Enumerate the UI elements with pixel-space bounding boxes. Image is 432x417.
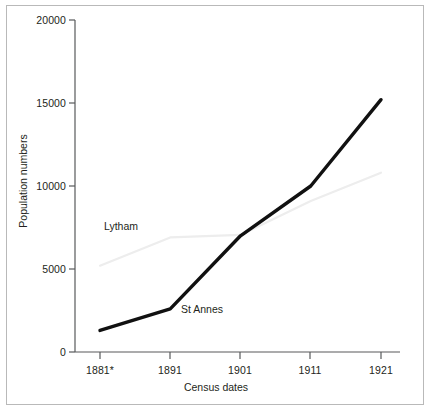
x-tick-label-1901: 1901: [210, 364, 270, 376]
x-axis-title: Census dates: [0, 381, 432, 393]
y-axis-title: Population numbers: [17, 111, 29, 251]
x-axis-ticks: [100, 352, 381, 359]
x-tick-label-1891: 1891: [140, 364, 200, 376]
series-label-st-annes: St Annes: [181, 303, 223, 315]
x-tick-label-1921: 1921: [351, 364, 411, 376]
series-line-st-annes: [100, 100, 381, 331]
y-tick-label-5000: 5000: [16, 263, 66, 275]
x-tick-label-1881: 1881*: [70, 364, 130, 376]
series-label-lytham: Lytham: [104, 220, 138, 232]
series-line-lytham: [100, 173, 381, 266]
chart-figure: 20000 15000 10000 5000 0 1881* 1891 1901…: [0, 0, 432, 417]
y-tick-label-20000: 20000: [16, 14, 66, 26]
y-tick-label-15000: 15000: [16, 97, 66, 109]
y-axis-ticks: [69, 20, 75, 352]
y-tick-label-0: 0: [16, 346, 66, 358]
x-tick-label-1911: 1911: [280, 364, 340, 376]
